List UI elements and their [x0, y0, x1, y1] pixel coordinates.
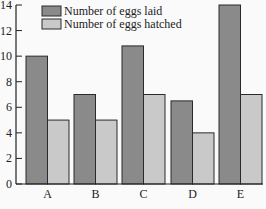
y-tick-label: 6 — [6, 100, 12, 114]
y-tick-label: 8 — [6, 75, 12, 89]
bar-e-laid — [219, 5, 241, 184]
bars-group — [26, 5, 262, 184]
legend: Number of eggs laidNumber of eggs hatche… — [42, 4, 182, 31]
y-tick-label: 4 — [6, 126, 12, 140]
y-tick-label: 2 — [6, 151, 12, 165]
grouped-bar-chart: 02468101214 ABCDE Number of eggs laidNum… — [0, 0, 266, 209]
y-tick-label: 10 — [0, 49, 12, 63]
bar-c-laid — [122, 46, 144, 184]
y-tick-label: 12 — [0, 24, 12, 38]
x-tick-label: B — [91, 187, 99, 201]
bar-b-hatched — [96, 120, 118, 184]
bar-d-laid — [171, 101, 193, 184]
bar-c-hatched — [144, 95, 166, 185]
x-tick-label: D — [188, 187, 197, 201]
legend-swatch-hatched — [42, 19, 61, 29]
x-axis: ABCDE — [16, 184, 263, 201]
legend-label-laid: Number of eggs laid — [64, 4, 162, 18]
y-axis: 02468101214 — [0, 0, 22, 191]
x-tick-label: C — [139, 187, 147, 201]
bar-b-laid — [74, 95, 96, 185]
bar-d-hatched — [193, 133, 215, 184]
x-tick-label: E — [237, 187, 244, 201]
y-tick-label: 0 — [6, 177, 12, 191]
legend-label-hatched: Number of eggs hatched — [64, 17, 182, 31]
y-tick-label: 14 — [0, 0, 12, 12]
x-tick-label: A — [43, 187, 52, 201]
bar-a-hatched — [48, 120, 70, 184]
bar-a-laid — [26, 56, 48, 184]
bar-e-hatched — [241, 95, 263, 185]
legend-swatch-laid — [42, 6, 61, 16]
